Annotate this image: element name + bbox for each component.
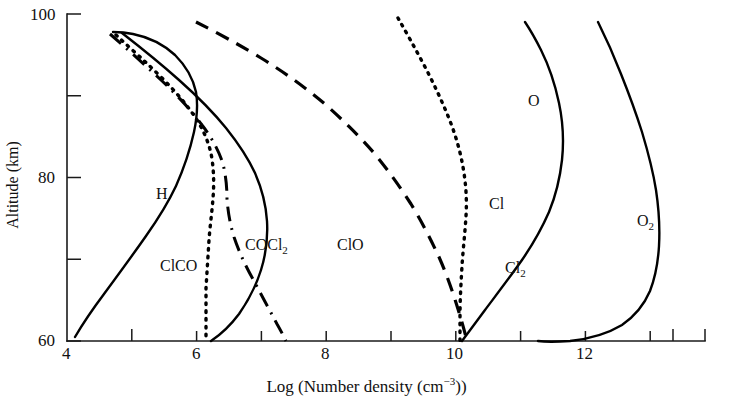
curve-o	[462, 22, 563, 341]
curve-label-o2-subscript: 2	[649, 220, 655, 232]
curve-label-cl2: Cl2	[505, 260, 526, 279]
curve-clo	[122, 33, 267, 341]
x-tick-label-6: 6	[192, 345, 201, 362]
curve-o2	[538, 22, 659, 342]
curve-cl	[398, 18, 466, 341]
x-axis-title-superscript: −3	[444, 375, 456, 387]
curve-label-cl: Cl	[489, 196, 504, 212]
x-tick-label-4: 4	[62, 345, 71, 362]
curve-cl2	[196, 22, 467, 341]
curve-label-cl2-subscript: 2	[520, 267, 526, 279]
x-tick-label-8: 8	[321, 345, 330, 362]
y-tick-label-80: 80	[38, 169, 55, 186]
curve-label-cocl2-subscript: 2	[282, 244, 288, 256]
chart-canvas	[0, 0, 733, 406]
curve-label-o2: O2	[637, 213, 654, 232]
curve-label-cocl2-text: COCl	[245, 236, 282, 253]
y-axis-title: Altitude (km)	[4, 141, 22, 229]
y-axis-title-wrap: Altitude (km)	[2, 105, 24, 265]
curve-label-o2-text: O	[637, 212, 649, 229]
curve-label-o: O	[528, 93, 540, 109]
x-tick-label-10: 10	[446, 345, 463, 362]
curve-label-clco: ClCO	[160, 258, 197, 274]
x-axis-title-suffix: ))	[455, 377, 466, 396]
y-axis-ticks	[67, 14, 81, 341]
curve-label-clo: ClO	[337, 237, 364, 253]
x-tick-label-12: 12	[576, 345, 593, 362]
curve-label-h: H	[156, 186, 168, 202]
altitude-number-density-chart: 100 80 60 4 6 8 10 12 Altitude (km) Log …	[0, 0, 733, 406]
x-axis-title: Log (Number density (cm−3))	[0, 375, 733, 397]
y-tick-label-100: 100	[30, 6, 56, 23]
x-axis-title-prefix: Log (Number density (cm	[266, 377, 443, 396]
curve-h	[75, 32, 197, 337]
curve-label-cl2-text: Cl	[505, 259, 520, 276]
curve-label-cocl2: COCl2	[245, 237, 288, 256]
y-tick-label-60: 60	[38, 332, 55, 349]
